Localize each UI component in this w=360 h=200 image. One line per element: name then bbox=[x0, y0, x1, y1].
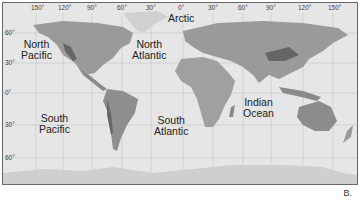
greenland bbox=[123, 11, 168, 33]
longitude-label: 0° bbox=[178, 4, 184, 11]
landmasses bbox=[3, 11, 358, 185]
madagascar bbox=[229, 105, 235, 117]
longitude-label: 120° bbox=[298, 4, 311, 11]
world-map: 150°120°90°60°30°0°30°60°90°120°150° 60°… bbox=[2, 2, 358, 185]
ocean-label-north-pacific: North Pacific bbox=[21, 39, 52, 61]
antarctica bbox=[3, 165, 358, 185]
longitude-label: 30° bbox=[146, 4, 156, 11]
figure-label: B. bbox=[343, 188, 352, 198]
longitude-label: 120° bbox=[58, 4, 71, 11]
longitude-label: 60° bbox=[238, 4, 248, 11]
longitude-label: 90° bbox=[266, 4, 276, 11]
ocean-label-arctic: Arctic bbox=[168, 13, 194, 24]
longitude-label: 150° bbox=[31, 4, 44, 11]
longitude-label: 150° bbox=[328, 4, 341, 11]
ocean-label-south-pacific: South Pacific bbox=[39, 113, 70, 135]
ocean-label-north-atlantic: North Atlantic bbox=[132, 39, 166, 61]
longitude-label: 60° bbox=[117, 4, 127, 11]
ocean-label-indian-ocean: Indian Ocean bbox=[243, 97, 274, 119]
new-zealand bbox=[343, 125, 353, 143]
latitude-label: 30° bbox=[5, 121, 15, 128]
map-graphic bbox=[3, 3, 358, 185]
ocean-label-south-atlantic: South Atlantic bbox=[154, 115, 188, 137]
latitude-label: 60° bbox=[5, 154, 15, 161]
latitude-label: 60° bbox=[5, 29, 15, 36]
latitude-label: 0° bbox=[5, 89, 11, 96]
southeast-asia-islands bbox=[279, 87, 321, 101]
latitude-label: 30° bbox=[5, 59, 15, 66]
longitude-label: 30° bbox=[208, 4, 218, 11]
longitude-label: 90° bbox=[87, 4, 97, 11]
